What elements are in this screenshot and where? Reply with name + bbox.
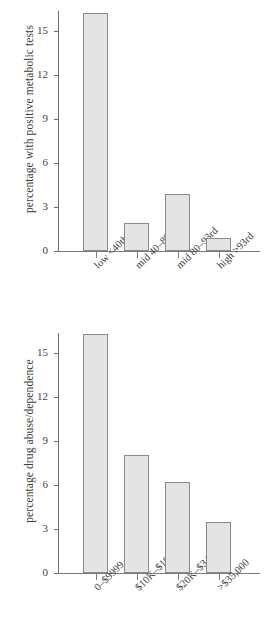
bar [83,334,108,573]
plot-area-top: percentage with positive metabolic tests… [0,0,270,322]
bar [165,194,190,251]
y-tick-label: 12 [26,68,48,80]
y-axis-line [58,11,59,251]
y-tick-label: 0 [26,566,48,578]
y-tick-mark [54,163,58,164]
y-tick-label: 9 [26,434,48,446]
y-axis-line [58,333,59,573]
bar [165,482,190,573]
y-tick-label: 0 [26,244,48,256]
y-tick-label: 6 [26,478,48,490]
y-tick-mark [54,75,58,76]
y-tick-mark [54,119,58,120]
y-tick-mark [54,353,58,354]
y-tick-mark [54,251,58,252]
y-tick-label: 3 [26,200,48,212]
y-tick-label: 12 [26,390,48,402]
chart-metabolic-tests: percentage with positive metabolic tests… [0,0,270,322]
y-tick-mark [54,529,58,530]
y-tick-mark [54,31,58,32]
y-tick-label: 6 [26,156,48,168]
bar [124,223,149,251]
y-tick-mark [54,441,58,442]
y-tick-mark [54,397,58,398]
y-tick-label: 9 [26,112,48,124]
y-tick-label: 15 [26,24,48,36]
y-tick-label: 3 [26,522,48,534]
chart-drug-abuse: percentage drug abuse/dependence 0369121… [0,322,270,644]
y-tick-mark [54,207,58,208]
y-tick-label: 15 [26,346,48,358]
y-tick-mark [54,573,58,574]
bar [83,13,108,251]
bar [124,455,149,573]
plot-area-bottom: percentage drug abuse/dependence 0369121… [0,322,270,644]
y-tick-mark [54,485,58,486]
bar [206,522,231,573]
